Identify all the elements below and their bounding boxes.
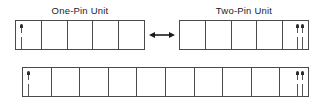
two-pin-unit-title: Two-Pin Unit: [178, 5, 310, 16]
cell: [119, 21, 144, 49]
cell: [166, 68, 195, 96]
cell: [16, 21, 42, 49]
cell: [252, 68, 281, 96]
one-pin-unit-strip: [15, 20, 145, 50]
cell: [206, 21, 232, 49]
cell: [42, 21, 68, 49]
two-pin-unit-strip: [179, 20, 309, 50]
cell: [232, 21, 258, 49]
cell: [257, 21, 283, 49]
cell: [23, 68, 52, 96]
combined-unit-strip: [22, 67, 309, 97]
cell: [280, 68, 308, 96]
cell: [283, 21, 308, 49]
cell: [52, 68, 81, 96]
pin-group-double: [296, 71, 304, 93]
cell: [93, 21, 119, 49]
cell: [195, 68, 224, 96]
pin-group-single: [27, 71, 30, 93]
pin-icon: [296, 24, 299, 46]
cell: [80, 68, 109, 96]
pin-icon: [301, 24, 304, 46]
pin-group-double: [296, 24, 304, 46]
pin-icon: [20, 24, 23, 46]
pin-icon: [296, 71, 299, 93]
cell: [137, 68, 166, 96]
double-headed-arrow-icon: [149, 30, 175, 40]
cell: [68, 21, 94, 49]
one-pin-unit-title: One-Pin Unit: [14, 5, 146, 16]
diagram-canvas: One-Pin Unit Two-Pin Unit: [0, 0, 324, 104]
cell: [223, 68, 252, 96]
pin-icon: [301, 71, 304, 93]
pin-group-single: [20, 24, 23, 46]
pin-icon: [27, 71, 30, 93]
cell: [109, 68, 138, 96]
cell: [180, 21, 206, 49]
